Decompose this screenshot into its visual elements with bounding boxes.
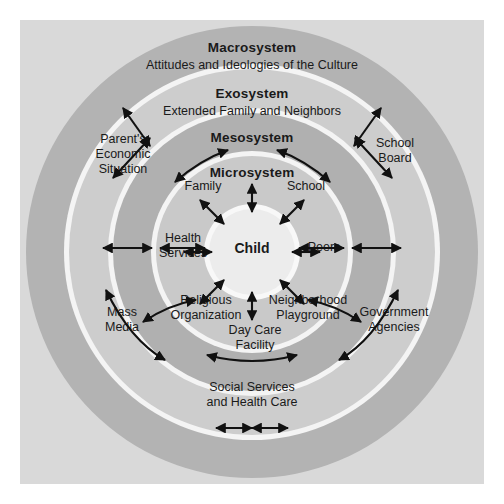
- child-circle: [209, 209, 295, 295]
- diagram-canvas: Macrosystem Attitudes and Ideologies of …: [0, 0, 504, 504]
- diagram-panel: Macrosystem Attitudes and Ideologies of …: [20, 20, 484, 484]
